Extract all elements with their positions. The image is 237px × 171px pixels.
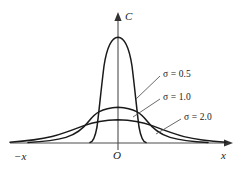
curve-label-sigma-1-0: σ = 1.0 xyxy=(163,93,191,103)
leader-line-sigma-0-5 xyxy=(136,76,160,99)
x-axis-negative-label: −x xyxy=(14,151,26,162)
origin-label: O xyxy=(113,150,121,161)
plot-canvas xyxy=(0,0,237,171)
curve-label-sigma-2-0: σ = 2.0 xyxy=(184,113,212,123)
y-axis-label: C xyxy=(125,11,132,22)
curve-label-sigma-0-5: σ = 0.5 xyxy=(163,70,191,80)
x-axis-arrow-icon xyxy=(224,139,233,146)
y-axis-arrow-icon xyxy=(114,12,121,21)
gaussian-distribution-figure: C −x O x σ = 0.5 σ = 1.0 σ = 2.0 xyxy=(0,0,237,171)
x-axis-label: x xyxy=(221,150,226,161)
